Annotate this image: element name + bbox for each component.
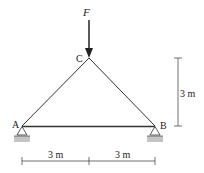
load-label: F bbox=[82, 6, 90, 18]
joint-label-a: A bbox=[12, 119, 20, 130]
span-right-label: 3 m bbox=[115, 149, 131, 160]
joint-label-c: C bbox=[76, 53, 83, 64]
member-ac bbox=[22, 58, 89, 126]
load-arrow-icon bbox=[85, 20, 93, 58]
span-left-label: 3 m bbox=[48, 149, 64, 160]
truss-diagram: F C A B 3 m 3 m 3 m bbox=[0, 0, 204, 173]
height-dimension-label: 3 m bbox=[180, 88, 196, 99]
joint-label-b: B bbox=[160, 120, 167, 131]
member-cb bbox=[89, 58, 155, 126]
span-dimension bbox=[22, 157, 155, 165]
